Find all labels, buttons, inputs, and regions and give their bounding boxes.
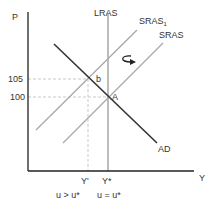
price-100-label: 100 xyxy=(10,92,25,102)
sras1-label-base: SRAS xyxy=(139,16,164,26)
price-105-label: 105 xyxy=(8,74,23,84)
y-star-label: Y* xyxy=(102,176,112,186)
unemployment-right-label: u = u* xyxy=(97,190,121,200)
unemployment-left-label: u > u* xyxy=(56,190,80,200)
point-a-label: A xyxy=(112,92,118,102)
y-axis-label: P xyxy=(12,12,18,22)
y-prime-label: Y' xyxy=(81,176,89,186)
ad-label: AD xyxy=(158,144,171,154)
sras-label: SRAS xyxy=(159,30,184,40)
lras-label: LRAS xyxy=(94,8,118,18)
ad-as-diagram: P Y LRAS SRAS1 SRAS AD 105 100 b A Y' Y*… xyxy=(0,0,216,207)
sras1-label-sub: 1 xyxy=(164,21,168,27)
shift-arrow-icon xyxy=(123,56,136,65)
x-axis-label: Y xyxy=(199,173,205,183)
ad-curve xyxy=(54,44,157,143)
point-b-label: b xyxy=(96,74,101,84)
sras1-label: SRAS1 xyxy=(139,16,168,27)
sras1-curve xyxy=(36,30,137,130)
